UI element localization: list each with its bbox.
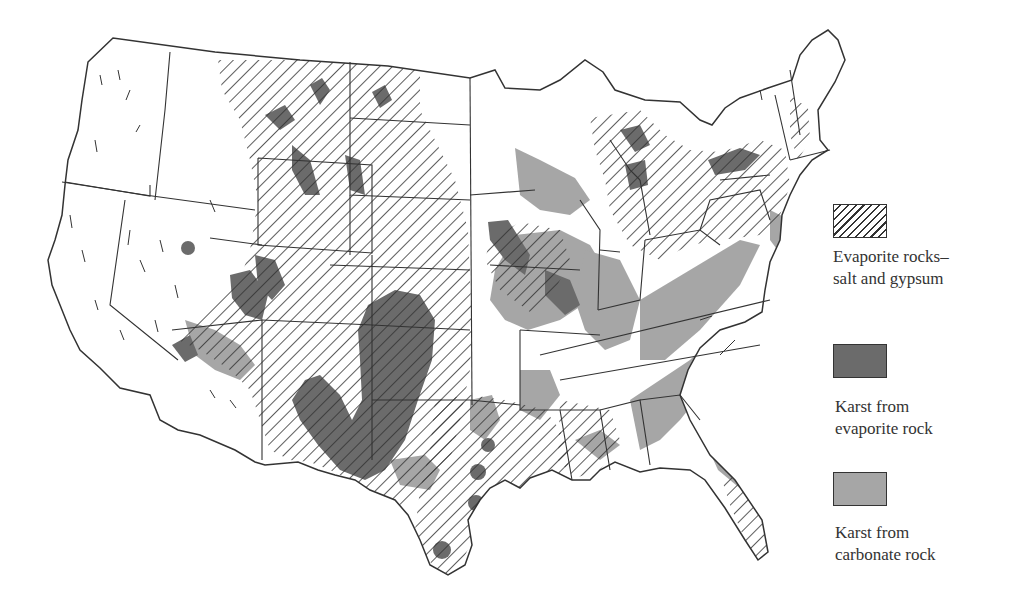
legend-label-line2: carbonate rock bbox=[835, 544, 936, 566]
hatch-swatch-icon bbox=[833, 204, 887, 238]
legend-label-line1: Karst from bbox=[835, 522, 936, 544]
dark-gray-swatch-icon bbox=[833, 344, 887, 378]
legend-karst-evaporite: Karst from evaporite rock bbox=[833, 344, 933, 440]
light-gray-swatch-icon bbox=[833, 472, 887, 506]
legend-label-line2: evaporite rock bbox=[835, 418, 933, 440]
evaporite-rock-areas bbox=[178, 60, 810, 575]
legend-karst-carbonate: Karst from carbonate rock bbox=[833, 472, 936, 566]
legend-label-line2: salt and gypsum bbox=[833, 268, 949, 290]
legend-label-line1: Karst from bbox=[835, 396, 933, 418]
legend-evaporite-rocks: Evaporite rocks– salt and gypsum bbox=[833, 204, 949, 290]
map-fills bbox=[172, 60, 810, 575]
legend-label-line1: Evaporite rocks– bbox=[833, 246, 949, 268]
